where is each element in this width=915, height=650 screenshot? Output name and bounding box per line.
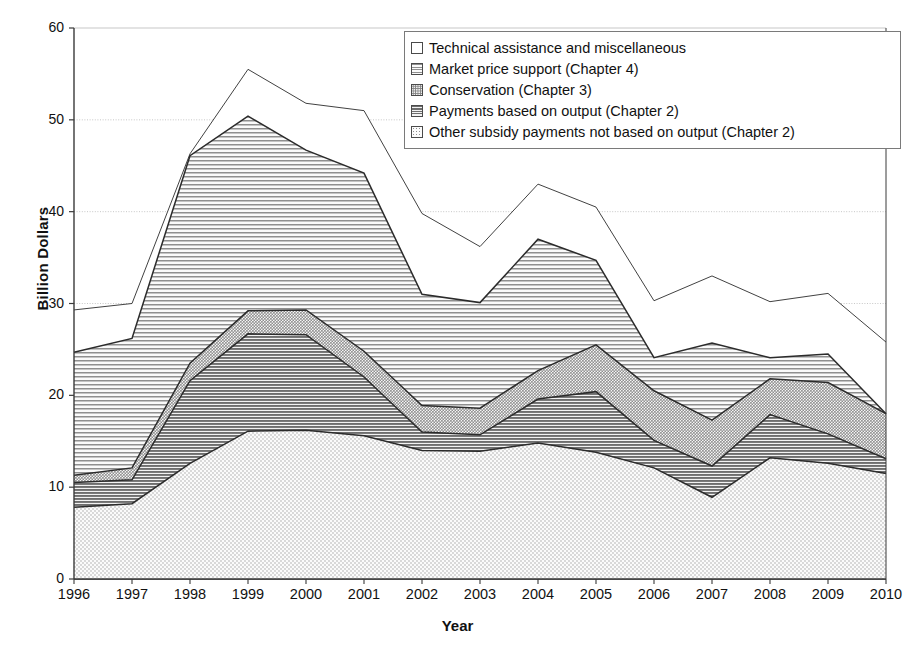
x-tick-label: 1999 (219, 586, 277, 602)
legend-label: Other subsidy payments not based on outp… (429, 124, 795, 140)
legend-swatch-icon (411, 63, 423, 75)
x-axis-title: Year (0, 617, 915, 634)
y-tick-label: 20 (28, 386, 64, 402)
legend-label: Payments based on output (Chapter 2) (429, 103, 679, 119)
x-tick-label: 2000 (277, 586, 335, 602)
x-tick-label: 2001 (335, 586, 393, 602)
legend-item: Payments based on output (Chapter 2) (411, 100, 894, 121)
legend-item: Conservation (Chapter 3) (411, 79, 894, 100)
legend-swatch-icon (411, 126, 423, 138)
x-tick-label: 2010 (857, 586, 915, 602)
x-tick-label: 2005 (567, 586, 625, 602)
legend-label: Technical assistance and miscellaneous (429, 40, 686, 56)
y-tick-label: 0 (28, 570, 64, 586)
y-tick-label: 40 (28, 203, 64, 219)
x-tick-label: 2002 (393, 586, 451, 602)
legend-swatch-icon (411, 84, 423, 96)
y-tick-label: 60 (28, 19, 64, 35)
legend-item: Other subsidy payments not based on outp… (411, 121, 894, 142)
legend-label: Conservation (Chapter 3) (429, 82, 592, 98)
x-tick-label: 2008 (741, 586, 799, 602)
legend-item: Market price support (Chapter 4) (411, 58, 894, 79)
area-chart: Billion Dollars Year 0102030405060 19961… (0, 0, 915, 650)
x-tick-label: 2007 (683, 586, 741, 602)
y-tick-label: 50 (28, 111, 64, 127)
x-tick-label: 2006 (625, 586, 683, 602)
y-tick-label: 30 (28, 295, 64, 311)
x-tick-label: 2003 (451, 586, 509, 602)
legend-label: Market price support (Chapter 4) (429, 61, 639, 77)
x-tick-label: 2004 (509, 586, 567, 602)
x-tick-label: 1998 (161, 586, 219, 602)
y-tick-label: 10 (28, 478, 64, 494)
x-tick-label: 2009 (799, 586, 857, 602)
legend-swatch-icon (411, 105, 423, 117)
x-tick-label: 1997 (103, 586, 161, 602)
x-tick-label: 1996 (45, 586, 103, 602)
chart-legend: Technical assistance and miscellaneousMa… (404, 31, 901, 149)
legend-item: Technical assistance and miscellaneous (411, 37, 894, 58)
legend-swatch-icon (411, 42, 423, 54)
